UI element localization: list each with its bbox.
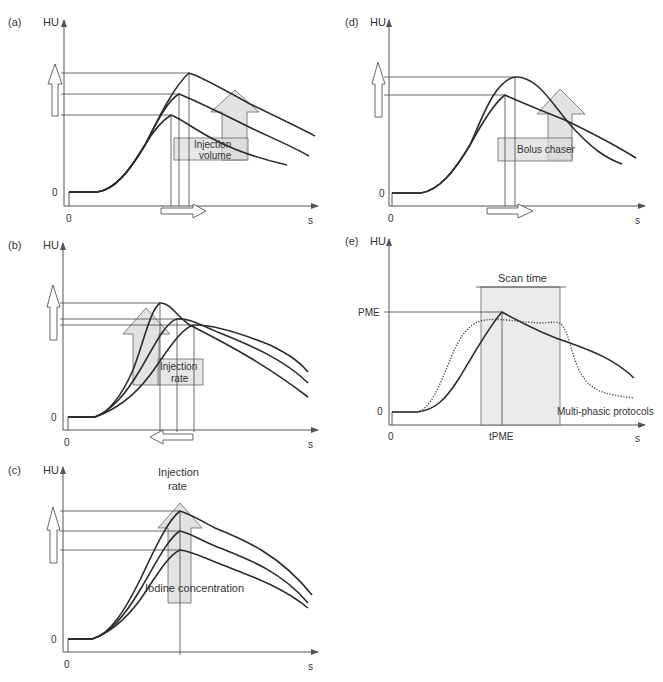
panel-d-zero-x: 0 [388,213,394,224]
panel-a-zero-x: 0 [66,213,72,224]
tpme-label: tPME [489,431,514,442]
panel-b-box-line1: Injection [160,361,197,372]
left-arrow-icon [150,430,193,444]
panel-b: (b) HU 0 0 s Injection rate [8,239,318,450]
panel-c: (c) HU 0 0 s Injection rate Iodine conce… [8,464,318,672]
scan-time-window [481,287,560,425]
panel-c-ylabel: HU [43,464,59,476]
up-arrow-icon [47,285,60,340]
panel-d-ylabel: HU [370,16,386,28]
panel-c-top-line1: Injection [158,466,199,478]
pme-label: PME [358,307,380,318]
panel-b-zero-x: 0 [64,437,70,448]
panel-e-ylabel: HU [370,235,386,247]
panel-a-tag: (a) [8,16,21,28]
guide-high [384,77,515,206]
panel-b-xlabel: s [308,439,313,450]
panel-e-zero-y: 0 [377,406,383,417]
panel-c-top-line2: rate [168,480,187,492]
panel-a-xlabel: s [308,215,313,226]
panel-e-tag: (e) [345,235,358,247]
panel-e: (e) HU 0 0 s Scan time PME tPME Multi-ph… [345,235,654,444]
panel-b-ylabel: HU [43,239,59,251]
panel-b-zero-y: 0 [51,412,57,423]
panel-c-zero-x: 0 [64,659,70,670]
multiphasic-label: Multi-phasic protocols [557,406,654,417]
up-arrow-icon [372,62,385,117]
panel-c-xlabel: s [308,661,313,672]
panel-a-box-line2: volume [199,150,232,161]
panel-a-ylabel: HU [43,16,59,28]
up-arrow-icon [48,64,62,116]
curve-with-chaser [392,77,622,193]
panel-d-zero-y: 0 [379,188,385,199]
panel-a-zero-y: 0 [52,187,58,198]
panel-b-box-line2: rate [171,373,189,384]
scan-time-label: Scan time [498,272,547,284]
panel-d-box-label: Bolus chaser [517,144,575,155]
panel-a: (a) HU 0 0 s Injection volume [8,16,318,226]
guide-high [61,73,189,206]
guide-low [384,95,505,206]
panel-d-xlabel: s [635,215,640,226]
up-arrow-icon [47,507,60,563]
panel-b-tag: (b) [8,239,21,251]
panel-d-tag: (d) [345,16,358,28]
guide-mid [61,94,179,206]
panel-d: (d) HU 0 0 s Bolus chaser [345,16,645,226]
figure: (a) HU 0 0 s Injection volume (d) HU 0 0 [0,0,663,682]
panel-c-tag: (c) [8,464,21,476]
panel-e-xlabel: s [635,433,640,444]
iodine-concentration-label: Iodine concentration [145,582,244,594]
curve-high [69,73,315,192]
panel-e-zero-x: 0 [388,431,394,442]
panel-c-zero-y: 0 [51,634,57,645]
